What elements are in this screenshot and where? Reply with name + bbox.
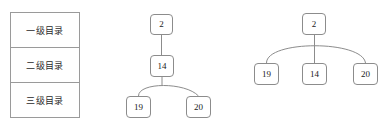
- directory-row-label: 二级目录: [26, 59, 63, 72]
- edge-14-to-19-20-arc: [139, 86, 199, 97]
- tree-node-middle-14: 14: [150, 55, 174, 77]
- tree-node-label: 20: [194, 103, 203, 112]
- tree-node-right-root: 2: [302, 13, 326, 35]
- tree-node-label: 19: [134, 103, 143, 112]
- tree-node-label: 20: [361, 70, 370, 79]
- directory-row-level2: 二级目录: [11, 48, 79, 83]
- tree-node-label: 14: [310, 70, 319, 79]
- tree-node-middle-19: 19: [126, 96, 151, 118]
- tree-node-right-20: 20: [353, 63, 378, 85]
- directory-table: 一级目录 二级目录 三级目录: [10, 12, 80, 118]
- directory-row-label: 一级目录: [26, 24, 63, 37]
- edge-2-to-19-20-arc: [267, 46, 366, 63]
- tree-node-label: 19: [262, 70, 271, 79]
- figure-canvas: 一级目录 二级目录 三级目录 2 14 19 20 2 19: [0, 0, 385, 131]
- directory-row-label: 三级目录: [26, 94, 63, 107]
- directory-row-level1: 一级目录: [11, 13, 79, 48]
- tree-node-middle-root: 2: [150, 14, 173, 35]
- directory-row-level3: 三级目录: [11, 83, 79, 117]
- tree-node-label: 2: [159, 20, 164, 29]
- tree-node-right-19: 19: [254, 63, 279, 85]
- tree-node-middle-20: 20: [186, 96, 211, 118]
- tree-node-right-14: 14: [302, 63, 327, 85]
- tree-node-label: 14: [158, 62, 167, 71]
- tree-node-label: 2: [312, 20, 317, 29]
